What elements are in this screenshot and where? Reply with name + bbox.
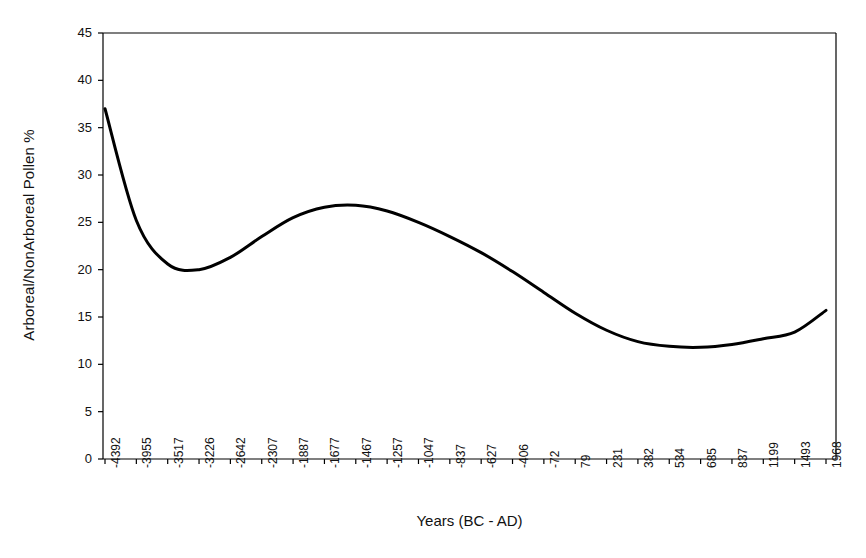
x-tick-label: 1493	[800, 441, 812, 468]
x-tick-label: 1199	[768, 442, 780, 468]
x-tick-label: -72	[549, 451, 561, 468]
x-tick-label: 382	[643, 448, 655, 468]
x-tick-label: -2307	[267, 437, 279, 468]
x-tick-label: -3955	[141, 437, 153, 468]
plot-area	[0, 0, 866, 558]
x-axis-title: Years (BC - AD)	[103, 512, 836, 529]
x-tick-label: -1047	[423, 437, 435, 468]
x-tick-label: -3517	[173, 437, 185, 468]
y-axis-ticks	[98, 33, 103, 459]
x-tick-label: -1677	[329, 437, 341, 468]
x-tick-label: -837	[455, 444, 467, 468]
x-tick-label: 79	[580, 455, 592, 468]
x-tick-label: -406	[518, 444, 530, 468]
x-tick-label: -1467	[361, 437, 373, 468]
x-tick-label: -2642	[235, 437, 247, 468]
x-tick-label: -4392	[110, 437, 122, 468]
chart-figure: Arboreal/NonArboreal Pollen % 0510152025…	[0, 0, 866, 558]
x-tick-label: -1887	[298, 437, 310, 468]
x-tick-label: 685	[706, 448, 718, 468]
x-tick-label: -1257	[392, 437, 404, 468]
x-tick-label: -3226	[204, 437, 216, 468]
x-tick-label: 534	[674, 448, 686, 468]
x-tick-label: 837	[737, 448, 749, 468]
data-series-line	[105, 109, 826, 348]
x-tick-label: -627	[486, 444, 498, 468]
x-tick-label: 1968	[831, 441, 843, 468]
x-tick-label: 231	[612, 448, 624, 468]
